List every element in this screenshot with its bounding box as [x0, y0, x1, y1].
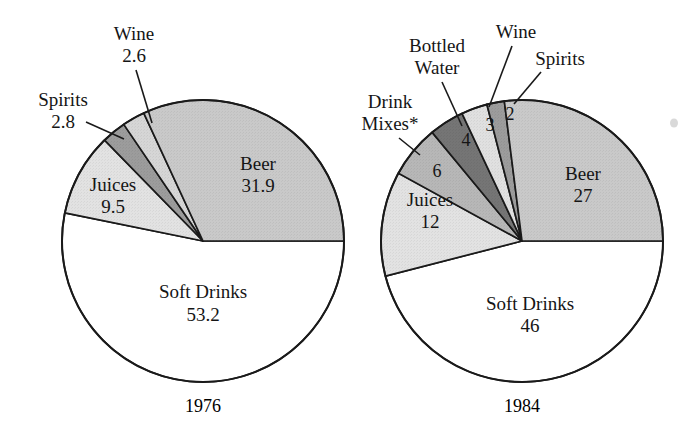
label-bottled-water-name-line1-1984: Bottled [409, 35, 465, 56]
label-spirits-value-1976: 2.8 [51, 111, 75, 132]
label-bottled-water-value-1984: 4 [462, 130, 471, 150]
label-wine-value-1984: 3 [486, 115, 495, 135]
label-soft-drinks-name-1984: Soft Drinks [486, 293, 574, 314]
label-soft-drinks-value-1984: 46 [521, 315, 540, 336]
charts-svg: Beer 31.9 Juices 9.5 Soft Drinks 53.2 Wi… [0, 0, 697, 439]
year-label-1984: 1984 [504, 396, 540, 416]
label-drink-mixes-name-line1-1984: Drink [368, 91, 413, 112]
pie-chart-figure: Beer 31.9 Juices 9.5 Soft Drinks 53.2 Wi… [0, 0, 697, 439]
label-wine-value-1976: 2.6 [122, 45, 146, 66]
scan-speck [670, 119, 678, 128]
label-soft-drinks-value-1976: 53.2 [186, 304, 219, 325]
label-juices-name-1976: Juices [90, 174, 136, 195]
label-drink-mixes-value-1984: 6 [433, 161, 442, 181]
label-juices-value-1976: 9.5 [101, 196, 125, 217]
label-bottled-water-name-line2-1984: Water [415, 57, 461, 78]
label-beer-value-1984: 27 [574, 185, 593, 206]
label-beer-name-1976: Beer [240, 153, 277, 174]
label-drink-mixes-name-line2-1984: Mixes* [362, 113, 419, 134]
label-soft-drinks-name-1976: Soft Drinks [159, 281, 247, 302]
label-juices-value-1984: 12 [421, 211, 440, 232]
label-spirits-name-1976: Spirits [38, 89, 88, 110]
label-beer-name-1984: Beer [565, 163, 602, 184]
label-spirits-name-1984: Spirits [535, 48, 585, 69]
label-wine-name-1976: Wine [114, 23, 154, 44]
label-spirits-value-1984: 2 [506, 104, 515, 124]
year-label-1976: 1976 [185, 396, 221, 416]
label-wine-name-1984: Wine [496, 21, 536, 42]
label-beer-value-1976: 31.9 [241, 175, 274, 196]
label-juices-name-1984: Juices [407, 189, 453, 210]
